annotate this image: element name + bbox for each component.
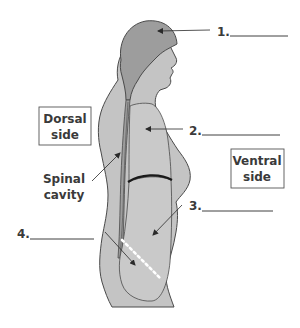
thoracic-cavity xyxy=(129,103,171,182)
dorsal-side-label-line1: Dorsal xyxy=(43,112,86,126)
ventral-side-label-line2: side xyxy=(243,170,271,184)
body-cavities-diagram: 1. 2. 3. 4. Dorsal side Ventral side Spi… xyxy=(0,0,300,328)
label-4-number: 4. xyxy=(17,227,30,241)
dorsal-side-label-line2: side xyxy=(51,128,79,142)
spinal-cavity-label-line2: cavity xyxy=(44,188,85,202)
label-1-number: 1. xyxy=(217,25,230,39)
label-2-number: 2. xyxy=(189,124,202,138)
label-3-number: 3. xyxy=(189,199,202,213)
spinal-cavity-label-line1: Spinal xyxy=(43,172,85,186)
ventral-side-label-line1: Ventral xyxy=(232,154,281,168)
